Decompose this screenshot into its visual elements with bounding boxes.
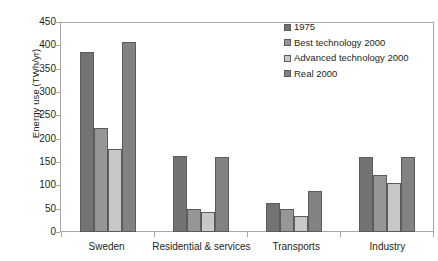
legend-item: Best technology 2000 — [284, 38, 409, 48]
bar — [80, 52, 94, 232]
y-tick-mark — [55, 232, 60, 233]
bar — [122, 42, 136, 232]
legend-swatch-icon — [284, 24, 291, 31]
x-tick-mark — [247, 232, 248, 237]
bar — [401, 157, 415, 232]
legend-swatch-icon — [284, 39, 291, 46]
x-axis-labels: SwedenResidential & servicesTransportsIn… — [61, 241, 433, 252]
bar-group — [154, 22, 247, 232]
bar-chart: Energy use (TWh/yr) 45040035030025020015… — [0, 0, 438, 261]
legend-label: Real 2000 — [294, 69, 337, 79]
bar — [201, 212, 215, 232]
bar — [387, 183, 401, 232]
x-tick-mark — [340, 232, 341, 237]
x-tick-mark — [433, 232, 434, 237]
x-axis-category-label: Residential & services — [152, 241, 250, 252]
bar — [108, 149, 122, 232]
x-axis-category-label: Transports — [251, 241, 342, 252]
y-tick-label: 350 — [16, 64, 56, 74]
bar-group — [61, 22, 154, 232]
x-axis-category-label: Sweden — [61, 241, 152, 252]
legend-swatch-icon — [284, 55, 291, 62]
bar — [187, 209, 201, 232]
legend-item: Advanced technology 2000 — [284, 53, 409, 63]
legend-swatch-icon — [284, 70, 291, 77]
legend-item: 1975 — [284, 22, 409, 32]
x-tick-mark — [61, 232, 62, 237]
y-tick-label: 450 — [16, 17, 56, 27]
y-tick-label: 300 — [16, 87, 56, 97]
x-axis-category-label: Industry — [342, 241, 433, 252]
y-tick-label: 400 — [16, 40, 56, 50]
legend-label: Best technology 2000 — [294, 38, 385, 48]
bar — [215, 157, 229, 232]
bar — [94, 128, 108, 232]
legend-item: Real 2000 — [284, 69, 409, 79]
bar — [373, 175, 387, 232]
y-tick-label: 200 — [16, 134, 56, 144]
y-tick-label: 0 — [16, 227, 56, 237]
y-tick-label: 100 — [16, 180, 56, 190]
y-tick-label: 250 — [16, 110, 56, 120]
chart-legend: 1975Best technology 2000Advanced technol… — [284, 22, 409, 79]
bar — [308, 191, 322, 232]
bar — [359, 157, 373, 232]
legend-label: 1975 — [294, 22, 315, 32]
bar — [294, 216, 308, 232]
bar — [173, 156, 187, 232]
y-tick-label: 50 — [16, 204, 56, 214]
bar — [266, 203, 280, 232]
x-tick-mark — [154, 232, 155, 237]
y-tick-label: 150 — [16, 157, 56, 167]
bar — [280, 209, 294, 232]
legend-label: Advanced technology 2000 — [294, 53, 409, 63]
